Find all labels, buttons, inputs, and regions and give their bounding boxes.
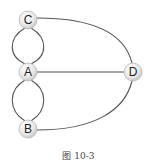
node-label: D (129, 65, 138, 79)
node-label: B (24, 122, 32, 136)
edge-c-a-right (31, 28, 44, 64)
node-a: A (19, 63, 37, 81)
figure-caption: 图 10-3 (0, 149, 157, 162)
node-b: B (19, 120, 37, 138)
edge-b-d (37, 81, 132, 130)
node-c: C (19, 11, 37, 29)
edge-a-b-right (31, 80, 44, 121)
node-d: D (124, 63, 142, 81)
edge-a-b-left (12, 80, 25, 121)
node-label: A (24, 65, 32, 79)
node-label: C (24, 13, 33, 27)
graph-diagram: C A B D (0, 0, 157, 168)
edge-c-a-left (12, 28, 25, 64)
edge-c-d (37, 18, 132, 63)
